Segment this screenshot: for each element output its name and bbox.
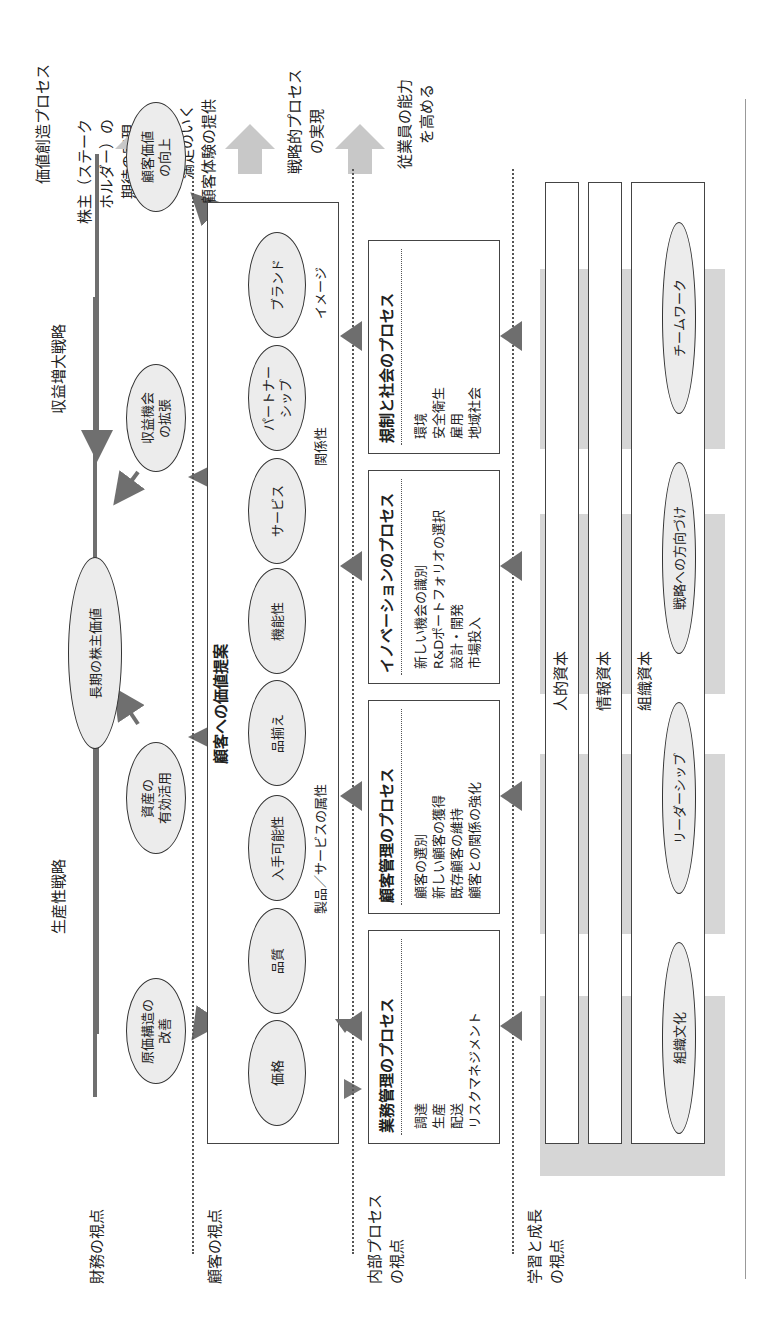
org-element-teamwork: チームワーク [662, 222, 696, 414]
organization-capital-label: 組織資本 [636, 651, 655, 711]
information-capital-box: 情報資本 [588, 182, 622, 1144]
org-element-culture: 組織文化 [662, 942, 696, 1134]
human-capital-box: 人的資本 [545, 182, 579, 1144]
org-element-alignment: 戦略への方向づけ [662, 462, 696, 654]
org-element-leadership: リーダーシップ [662, 702, 696, 894]
strategy-map-figure: 価値創造プロセス 株主（ステーク ホルダー）の 期待の実現 満足のいく 顧客体験… [0, 0, 784, 1334]
information-capital-label: 情報資本 [595, 651, 614, 711]
human-capital-label: 人的資本 [552, 651, 571, 711]
